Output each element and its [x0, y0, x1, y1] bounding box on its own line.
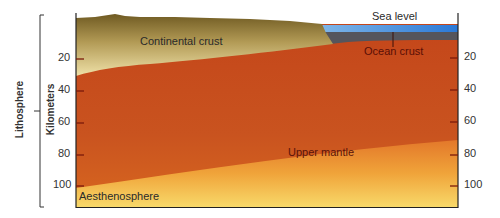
left-tick-40: 40: [58, 83, 70, 95]
sea-level-label: Sea level: [372, 10, 417, 22]
right-tick-100: 100: [464, 178, 482, 190]
right-tick-40: 40: [464, 82, 476, 94]
continental-crust-label: Continental crust: [140, 35, 223, 47]
left-tick-60: 60: [58, 115, 70, 127]
left-tick-100: 100: [53, 178, 71, 190]
aesthenosphere-label: Aesthenosphere: [79, 190, 159, 202]
kilometers-axis-title: Kilometers: [45, 80, 56, 140]
ocean-crust-label: Ocean crust: [364, 45, 423, 57]
lithosphere-bracket: [40, 15, 44, 207]
lithosphere-diagram: Sea level Continental crust Ocean crust …: [0, 0, 500, 218]
right-tick-60: 60: [464, 114, 476, 126]
left-tick-80: 80: [58, 147, 70, 159]
right-tick-80: 80: [464, 147, 476, 159]
right-tick-20: 20: [464, 50, 476, 62]
upper-mantle-label: Upper mantle: [288, 146, 354, 158]
sea-layer: [320, 25, 458, 32]
lithosphere-label: Lithosphere: [14, 80, 25, 140]
left-tick-20: 20: [58, 51, 70, 63]
cross-section-figure: [0, 0, 500, 218]
